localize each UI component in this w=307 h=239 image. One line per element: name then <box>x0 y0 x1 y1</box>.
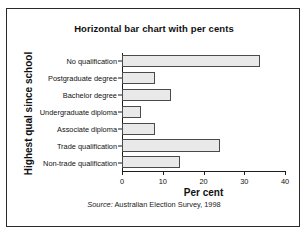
bar-no-qualification <box>122 55 260 67</box>
source-text: Australian Election Survey, 1998 <box>114 200 220 209</box>
y-tick-label: Trade qualification <box>57 141 117 150</box>
bar-row: Trade qualification <box>122 137 285 154</box>
x-tick-mark <box>204 171 205 175</box>
figure-frame: Horizontal bar chart with per cents High… <box>6 8 300 227</box>
y-tick-label: Non-trade qualification <box>43 158 117 167</box>
y-tick-label: Postgraduate degree <box>48 74 117 83</box>
y-tick-label: Undergraduate diploma <box>40 107 117 116</box>
x-tick-label: 20 <box>192 177 216 186</box>
x-tick-mark <box>244 171 245 175</box>
bar-undergraduate-diploma <box>122 106 141 118</box>
bar-row: Undergraduate diploma <box>122 104 285 121</box>
y-tick-label: Associate diploma <box>57 124 117 133</box>
source-note: Source: Australian Election Survey, 1998 <box>7 200 301 209</box>
x-tick-label: 10 <box>151 177 175 186</box>
source-prefix: Source: <box>87 200 112 209</box>
y-axis-title: Highest qual since school <box>23 44 34 184</box>
bar-row: Postgraduate degree <box>122 70 285 87</box>
plot-area: No qualification Postgraduate degree Bac… <box>122 53 285 171</box>
bar-associate-diploma <box>122 123 155 135</box>
x-axis-title: Per cent <box>122 187 285 198</box>
bar-row: Associate diploma <box>122 120 285 137</box>
bar-row: Non-trade qualification <box>122 154 285 171</box>
chart-title: Horizontal bar chart with per cents <box>7 23 301 34</box>
x-tick-mark <box>163 171 164 175</box>
bar-non-trade-qualification <box>122 156 180 168</box>
x-tick-mark <box>285 171 286 175</box>
x-tick-label: 40 <box>273 177 297 186</box>
bar-bachelor-degree <box>122 89 171 101</box>
y-tick-label: No qualification <box>66 57 117 66</box>
x-tick-mark <box>122 171 123 175</box>
x-tick-label: 30 <box>232 177 256 186</box>
bar-trade-qualification <box>122 139 220 151</box>
bar-row: No qualification <box>122 53 285 70</box>
y-tick-label: Bachelor degree <box>63 91 117 100</box>
screenshot-root: Horizontal bar chart with per cents High… <box>0 0 307 239</box>
bar-row: Bachelor degree <box>122 87 285 104</box>
bar-postgraduate-degree <box>122 72 155 84</box>
x-tick-label: 0 <box>110 177 134 186</box>
